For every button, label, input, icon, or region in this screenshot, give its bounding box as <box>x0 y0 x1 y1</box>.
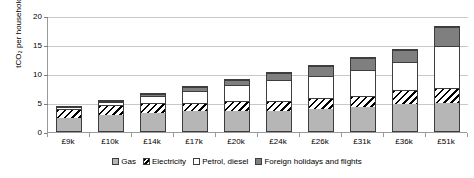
legend-label: Electricity <box>152 157 186 166</box>
y-tick-label: 10 <box>16 71 42 79</box>
bar-segment-petrol[interactable] <box>351 70 375 96</box>
stacked-bar[interactable] <box>308 65 334 132</box>
x-tick-label: £24k <box>257 137 299 146</box>
bar-segment-petrol[interactable] <box>141 96 165 103</box>
bar-segment-elec[interactable] <box>435 88 459 103</box>
stacked-bar[interactable] <box>182 86 208 132</box>
bar-segment-gas[interactable] <box>57 118 81 131</box>
bar-slot <box>300 16 342 132</box>
bar-slot <box>342 16 384 132</box>
bar-segment-flights[interactable] <box>351 58 375 70</box>
bar-segment-petrol[interactable] <box>267 80 291 101</box>
y-tick-label: 20 <box>16 13 42 21</box>
bar-segment-elec[interactable] <box>309 98 333 108</box>
bar-segment-elec[interactable] <box>57 109 81 118</box>
bar-segment-flights[interactable] <box>393 50 417 62</box>
chart-legend: GasElectricityPetrol, dieselForeign holi… <box>0 157 474 166</box>
legend-item-flights[interactable]: Foreign holidays and flights <box>255 157 361 166</box>
legend-swatch-flights-icon <box>255 158 262 165</box>
bar-segment-gas[interactable] <box>351 107 375 131</box>
x-tick-label: £17k <box>173 137 215 146</box>
legend-label: Gas <box>121 157 136 166</box>
bar-segment-petrol[interactable] <box>393 62 417 90</box>
y-tick-label: 5 <box>16 100 42 108</box>
bar-segment-elec[interactable] <box>225 101 249 110</box>
bar-segment-elec[interactable] <box>99 105 123 114</box>
bar-slot <box>426 16 468 132</box>
bar-segment-petrol[interactable] <box>225 85 249 102</box>
x-tick-label: £14k <box>131 137 173 146</box>
stacked-bar-chart: tCO₂ per household 05101520 £9k£10k£14k£… <box>0 0 474 178</box>
stacked-bar[interactable] <box>56 106 82 132</box>
bar-segment-petrol[interactable] <box>309 76 333 99</box>
x-tick-label: £26k <box>299 137 341 146</box>
bar-slot <box>174 16 216 132</box>
bar-segment-gas[interactable] <box>435 103 459 131</box>
bar-segment-gas[interactable] <box>99 115 123 131</box>
bar-slot <box>48 16 90 132</box>
bar-segment-petrol[interactable] <box>435 46 459 88</box>
stacked-bar[interactable] <box>434 26 460 132</box>
x-tick-label: £36k <box>383 137 425 146</box>
bar-slot <box>384 16 426 132</box>
legend-label: Foreign holidays and flights <box>264 157 361 166</box>
bar-segment-flights[interactable] <box>309 66 333 76</box>
stacked-bar[interactable] <box>98 100 124 132</box>
bar-segment-elec[interactable] <box>183 103 207 111</box>
stacked-bar[interactable] <box>350 57 376 132</box>
stacked-bar[interactable] <box>266 72 292 132</box>
bar-segment-gas[interactable] <box>183 111 207 131</box>
bar-segment-petrol[interactable] <box>183 91 207 103</box>
x-tick-label: £10k <box>89 137 131 146</box>
stacked-bar[interactable] <box>392 49 418 132</box>
bar-segment-gas[interactable] <box>141 113 165 131</box>
bar-segment-elec[interactable] <box>351 96 375 107</box>
bar-slot <box>90 16 132 132</box>
legend-item-petrol[interactable]: Petrol, diesel <box>193 157 248 166</box>
stacked-bar[interactable] <box>140 93 166 132</box>
bar-slot <box>216 16 258 132</box>
legend-label: Petrol, diesel <box>202 157 248 166</box>
bar-segment-elec[interactable] <box>141 103 165 113</box>
bar-segment-elec[interactable] <box>393 90 417 104</box>
y-tick-label: 15 <box>16 42 42 50</box>
bar-slot <box>258 16 300 132</box>
legend-swatch-petrol-icon <box>193 158 200 165</box>
bar-segment-elec[interactable] <box>267 101 291 111</box>
legend-item-elec[interactable]: Electricity <box>143 157 186 166</box>
bar-segment-gas[interactable] <box>225 111 249 131</box>
legend-swatch-gas-icon <box>112 158 119 165</box>
stacked-bar[interactable] <box>224 79 250 132</box>
bar-segment-gas[interactable] <box>267 111 291 131</box>
x-tick-label: £20k <box>215 137 257 146</box>
bar-group <box>48 16 468 132</box>
bar-segment-flights[interactable] <box>267 73 291 80</box>
legend-item-gas[interactable]: Gas <box>112 157 136 166</box>
x-tick-label: £31k <box>341 137 383 146</box>
plot-area: 05101520 <box>47 17 467 133</box>
bar-segment-gas[interactable] <box>393 104 417 131</box>
bar-slot <box>132 16 174 132</box>
bar-segment-flights[interactable] <box>435 27 459 45</box>
legend-swatch-elec-icon <box>143 158 150 165</box>
x-axis-labels: £9k£10k£14k£17k£20k£24k£26k£31k£36k£51k <box>47 137 467 146</box>
x-tick-label: £51k <box>425 137 467 146</box>
x-tick-label: £9k <box>47 137 89 146</box>
bar-segment-gas[interactable] <box>309 109 333 132</box>
x-tick-mark <box>467 133 468 137</box>
y-tick-label: 0 <box>16 129 42 137</box>
